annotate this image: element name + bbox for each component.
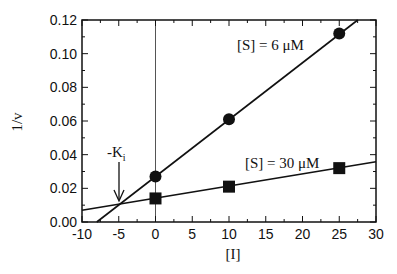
y-tick-label: 0.02	[50, 180, 77, 196]
circle-marker	[150, 171, 162, 183]
y-tick-label: 0.06	[50, 113, 77, 129]
circle-marker	[333, 27, 345, 39]
y-tick-label: 0.10	[50, 46, 77, 62]
data-points	[150, 27, 346, 204]
x-tick-label: 25	[331, 226, 347, 242]
x-axis-label: [I]	[226, 246, 241, 262]
square-marker	[223, 181, 235, 193]
x-tick-label: 20	[295, 226, 311, 242]
y-tick-label: 0.12	[50, 12, 77, 28]
y-tick-label: 0.04	[50, 147, 77, 163]
x-tick-label: 5	[188, 226, 196, 242]
circle-marker	[223, 113, 235, 125]
arrow-icon	[114, 162, 124, 201]
series-label-6uM: [S] = 6 μM	[237, 37, 304, 53]
ki-label: -Ki	[107, 144, 126, 163]
square-marker	[150, 192, 162, 204]
x-tick-label: 10	[221, 226, 237, 242]
x-tick-label: 0	[152, 226, 160, 242]
x-tick-label: 30	[368, 226, 384, 242]
y-tick-label: 0.08	[50, 79, 77, 95]
series-label-30uM: [S] = 30 μM	[245, 155, 319, 171]
y-tick-label: 0.00	[50, 214, 77, 230]
y-axis-label: 1/v	[9, 112, 25, 132]
x-tick-label: 15	[258, 226, 274, 242]
lineweaver-burk-chart: -10-50510152025300.000.020.040.060.080.1…	[0, 0, 397, 274]
square-marker	[333, 162, 345, 174]
x-tick-label: -5	[113, 226, 126, 242]
